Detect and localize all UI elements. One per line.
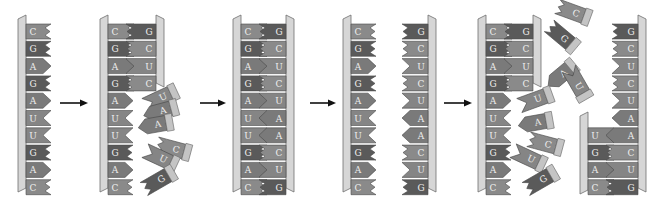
svg-text:A: A — [354, 62, 362, 72]
diagram-canvas: CGAGAUUGACCGGCAUGCAUUGACUAACUGCGGCAUGCAU… — [0, 0, 659, 204]
svg-text:G: G — [627, 183, 634, 193]
backbone-strand — [286, 15, 294, 192]
svg-text:U: U — [627, 62, 635, 72]
svg-text:G: G — [275, 27, 282, 37]
svg-text:C: C — [112, 183, 119, 193]
nucleotide-U: U — [108, 111, 133, 126]
svg-text:A: A — [591, 165, 599, 175]
free-nucleotide-G: G — [140, 164, 179, 196]
nucleotide-G: G — [402, 180, 428, 195]
nucleotide-G: G — [26, 41, 51, 56]
svg-text:U: U — [417, 62, 425, 72]
svg-text:G: G — [111, 79, 118, 89]
svg-text:C: C — [30, 27, 37, 37]
backbone-strand — [233, 15, 241, 192]
nucleotide-A: A — [402, 111, 428, 126]
nucleotide-G: G — [612, 24, 638, 39]
svg-text:G: G — [417, 27, 424, 37]
svg-text:C: C — [592, 183, 599, 193]
svg-text:C: C — [30, 183, 37, 193]
nucleotide-U: U — [402, 162, 428, 177]
free-nucleotide-G: G — [544, 19, 582, 55]
svg-text:A: A — [29, 62, 37, 72]
svg-text:C: C — [276, 148, 283, 158]
nucleotide-G: G — [259, 24, 286, 39]
nucleotide-A: A — [486, 162, 511, 177]
nucleotide-U: U — [108, 128, 133, 143]
nucleotide-A: A — [351, 93, 376, 108]
nucleotide-U: U — [402, 59, 428, 74]
step-3-double-strand: CGGCAUGCAUUAUAGCAUCG — [233, 15, 294, 195]
nucleotide-G: G — [402, 24, 428, 39]
svg-text:G: G — [522, 27, 529, 37]
svg-text:U: U — [244, 131, 252, 141]
svg-text:U: U — [354, 131, 362, 141]
nucleotide-C: C — [259, 41, 286, 56]
svg-text:U: U — [275, 165, 283, 175]
nucleotide-U: U — [26, 128, 51, 143]
nucleotide-U: U — [486, 111, 511, 126]
svg-text:U: U — [275, 96, 283, 106]
nucleotide-C: C — [504, 41, 533, 56]
svg-text:U: U — [111, 131, 119, 141]
svg-text:A: A — [244, 62, 252, 72]
svg-text:C: C — [418, 148, 425, 158]
svg-text:A: A — [29, 165, 37, 175]
nucleotide-G: G — [606, 180, 638, 195]
rna-replication-diagram: CGAGAUUGACCGGCAUGCAUUGACUAACUGCGGCAUGCAU… — [0, 0, 659, 204]
nucleotide-A: A — [486, 93, 511, 108]
nucleotide-A: A — [26, 59, 51, 74]
nucleotide-C: C — [402, 145, 428, 160]
svg-text:C: C — [490, 183, 497, 193]
svg-text:A: A — [29, 96, 37, 106]
nucleotide-A: A — [108, 93, 133, 108]
svg-text:G: G — [111, 44, 118, 54]
nucleotide-C: C — [612, 76, 638, 91]
free-nucleotide-C: C — [554, 0, 593, 26]
svg-text:U: U — [275, 62, 283, 72]
backbone-strand — [533, 15, 541, 87]
svg-text:A: A — [275, 114, 283, 124]
backbone-strand — [156, 15, 164, 87]
svg-text:G: G — [145, 27, 152, 37]
svg-text:A: A — [244, 165, 252, 175]
svg-text:A: A — [627, 131, 635, 141]
svg-text:C: C — [523, 44, 530, 54]
nucleotide-C: C — [402, 76, 428, 91]
svg-text:U: U — [29, 131, 37, 141]
svg-text:A: A — [489, 96, 497, 106]
nucleotide-G: G — [126, 24, 156, 39]
svg-text:C: C — [146, 44, 153, 54]
svg-text:C: C — [245, 27, 252, 37]
svg-text:U: U — [522, 62, 530, 72]
process-arrow-icon — [310, 100, 336, 107]
svg-text:U: U — [417, 96, 425, 106]
nucleotide-C: C — [612, 41, 638, 56]
svg-text:C: C — [628, 148, 635, 158]
nucleotide-C: C — [259, 145, 286, 160]
svg-text:A: A — [627, 114, 635, 124]
svg-text:U: U — [591, 131, 599, 141]
backbone-strand — [100, 15, 108, 192]
svg-text:U: U — [489, 114, 497, 124]
process-arrow-icon — [60, 100, 88, 107]
svg-text:G: G — [29, 148, 36, 158]
backbone-strand — [18, 15, 26, 192]
svg-text:G: G — [111, 148, 118, 158]
svg-text:A: A — [354, 165, 362, 175]
nucleotide-C: C — [402, 41, 428, 56]
svg-text:C: C — [628, 79, 635, 89]
svg-text:G: G — [275, 183, 282, 193]
svg-text:C: C — [276, 44, 283, 54]
nucleotide-G: G — [259, 180, 286, 195]
svg-text:G: G — [244, 148, 251, 158]
free-nucleotide-A: A — [517, 111, 554, 134]
svg-text:G: G — [627, 27, 634, 37]
svg-text:G: G — [29, 44, 36, 54]
nucleotide-A: A — [26, 93, 51, 108]
svg-text:A: A — [244, 96, 252, 106]
nucleotide-C: C — [26, 180, 51, 195]
backbone-strand — [428, 15, 436, 192]
backbone-strand — [580, 112, 588, 194]
svg-text:G: G — [591, 148, 598, 158]
